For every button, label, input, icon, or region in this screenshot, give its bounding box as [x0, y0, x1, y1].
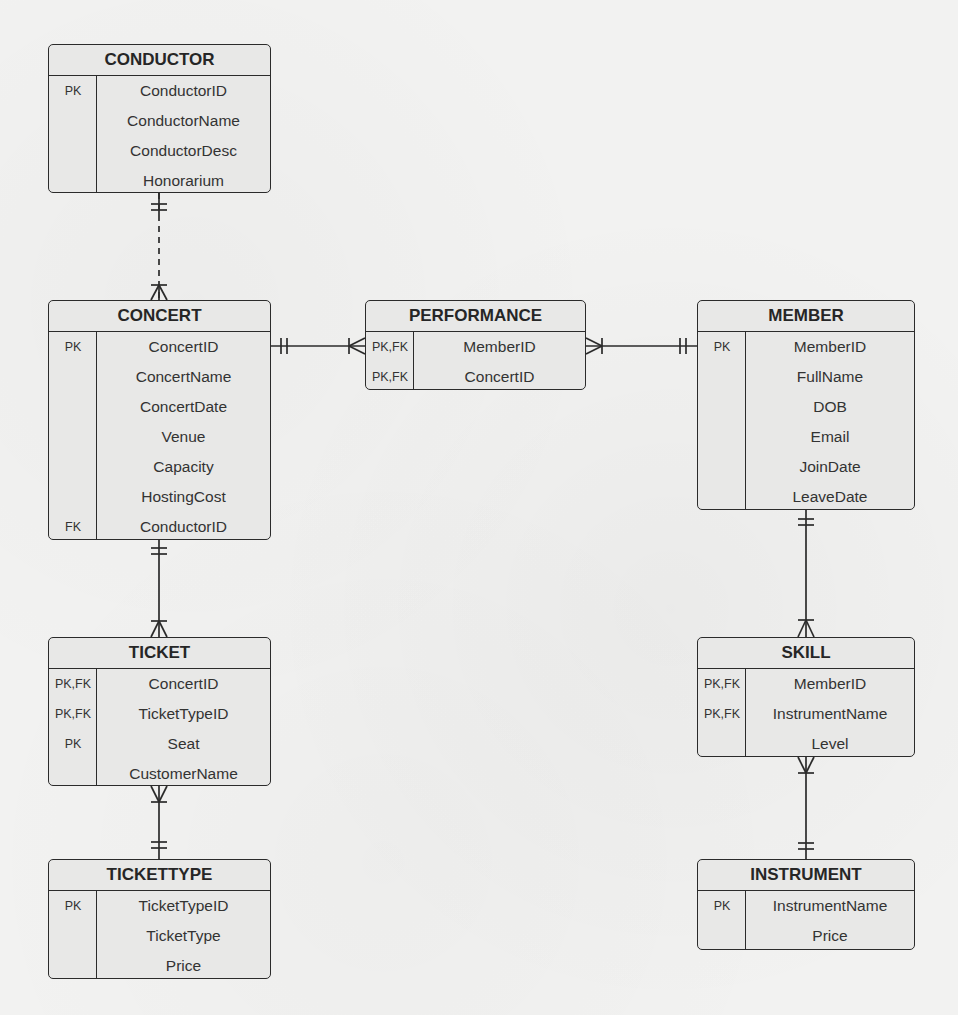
caption-truncated [50, 1007, 610, 1015]
attribute-name: TicketType [97, 921, 270, 951]
attribute-row: Price [698, 921, 914, 951]
key-label: PK [49, 891, 97, 921]
attribute-row: PK ConductorID [49, 76, 270, 106]
entity-ticket[interactable]: TICKET PK,FK ConcertID PK,FK TicketTypeI… [48, 637, 271, 786]
entity-title: MEMBER [698, 301, 914, 332]
attribute-row: ConductorDesc [49, 136, 270, 166]
attribute-name: ConductorID [97, 76, 270, 106]
attribute-name: ConductorID [97, 512, 270, 542]
attribute-row: HostingCost [49, 482, 270, 512]
attribute-row: FullName [698, 362, 914, 392]
attribute-row: PK TicketTypeID [49, 891, 270, 921]
entity-title: TICKETTYPE [49, 860, 270, 891]
attribute-row: PK,FK MemberID [366, 332, 585, 362]
entity-skill[interactable]: SKILL PK,FK MemberID PK,FK InstrumentNam… [697, 637, 915, 757]
attribute-name: InstrumentName [746, 891, 914, 921]
key-label: FK [49, 512, 97, 542]
attribute-name: ConductorDesc [97, 136, 270, 166]
attribute-name: Price [97, 951, 270, 981]
key-label: PK,FK [698, 699, 746, 729]
attribute-row: PK Seat [49, 729, 270, 759]
attribute-name: MemberID [414, 332, 585, 362]
entity-member[interactable]: MEMBER PK MemberID FullName DOB Email Jo… [697, 300, 915, 510]
attribute-name: ConcertID [97, 332, 270, 362]
attribute-name: CustomerName [97, 759, 270, 789]
key-label: PK [49, 76, 97, 106]
attribute-name: DOB [746, 392, 914, 422]
key-label: PK,FK [698, 669, 746, 699]
attribute-row: PK,FK MemberID [698, 669, 914, 699]
key-label: PK [49, 729, 97, 759]
key-label: PK,FK [49, 699, 97, 729]
entity-title: INSTRUMENT [698, 860, 914, 891]
attribute-name: ConcertID [414, 362, 585, 392]
key-label: PK [698, 332, 746, 362]
attribute-row: ConcertName [49, 362, 270, 392]
entity-title: TICKET [49, 638, 270, 669]
entity-title: CONDUCTOR [49, 45, 270, 76]
attribute-row: JoinDate [698, 452, 914, 482]
entity-title: CONCERT [49, 301, 270, 332]
attribute-row: FK ConductorID [49, 512, 270, 542]
attribute-row: PK,FK TicketTypeID [49, 699, 270, 729]
attribute-name: LeaveDate [746, 482, 914, 512]
attribute-name: ConcertName [97, 362, 270, 392]
key-label: PK,FK [366, 362, 414, 392]
attribute-name: Capacity [97, 452, 270, 482]
attribute-name: InstrumentName [746, 699, 914, 729]
attribute-row: PK,FK InstrumentName [698, 699, 914, 729]
attribute-row: LeaveDate [698, 482, 914, 512]
attribute-row: TicketType [49, 921, 270, 951]
attribute-row: Level [698, 729, 914, 759]
attribute-row: Capacity [49, 452, 270, 482]
attribute-name: JoinDate [746, 452, 914, 482]
entity-tickettype[interactable]: TICKETTYPE PK TicketTypeID TicketType Pr… [48, 859, 271, 979]
attribute-row: Venue [49, 422, 270, 452]
entity-title: PERFORMANCE [366, 301, 585, 332]
attribute-name: MemberID [746, 669, 914, 699]
attribute-row: Honorarium [49, 166, 270, 196]
attribute-row: Price [49, 951, 270, 981]
attribute-name: HostingCost [97, 482, 270, 512]
attribute-name: Level [746, 729, 914, 759]
attribute-row: PK InstrumentName [698, 891, 914, 921]
entity-conductor[interactable]: CONDUCTOR PK ConductorID ConductorName C… [48, 44, 271, 193]
attribute-row: CustomerName [49, 759, 270, 789]
entity-instrument[interactable]: INSTRUMENT PK InstrumentName Price [697, 859, 915, 950]
attribute-name: Honorarium [97, 166, 270, 196]
attribute-name: MemberID [746, 332, 914, 362]
attribute-row: ConcertDate [49, 392, 270, 422]
attribute-name: TicketTypeID [97, 891, 270, 921]
attribute-row: PK MemberID [698, 332, 914, 362]
attribute-name: FullName [746, 362, 914, 392]
attribute-name: Price [746, 921, 914, 951]
attribute-row: DOB [698, 392, 914, 422]
attribute-row: PK,FK ConcertID [49, 669, 270, 699]
attribute-name: ConductorName [97, 106, 270, 136]
attribute-name: Venue [97, 422, 270, 452]
attribute-row: PK,FK ConcertID [366, 362, 585, 392]
entity-performance[interactable]: PERFORMANCE PK,FK MemberID PK,FK Concert… [365, 300, 586, 390]
entity-title: SKILL [698, 638, 914, 669]
attribute-row: ConductorName [49, 106, 270, 136]
attribute-name: Email [746, 422, 914, 452]
key-label: PK,FK [49, 669, 97, 699]
attribute-name: ConcertID [97, 669, 270, 699]
attribute-name: Seat [97, 729, 270, 759]
entity-concert[interactable]: CONCERT PK ConcertID ConcertName Concert… [48, 300, 271, 540]
attribute-name: ConcertDate [97, 392, 270, 422]
attribute-name: TicketTypeID [97, 699, 270, 729]
attribute-row: PK ConcertID [49, 332, 270, 362]
key-label: PK [698, 891, 746, 921]
key-label: PK [49, 332, 97, 362]
attribute-row: Email [698, 422, 914, 452]
key-label: PK,FK [366, 332, 414, 362]
